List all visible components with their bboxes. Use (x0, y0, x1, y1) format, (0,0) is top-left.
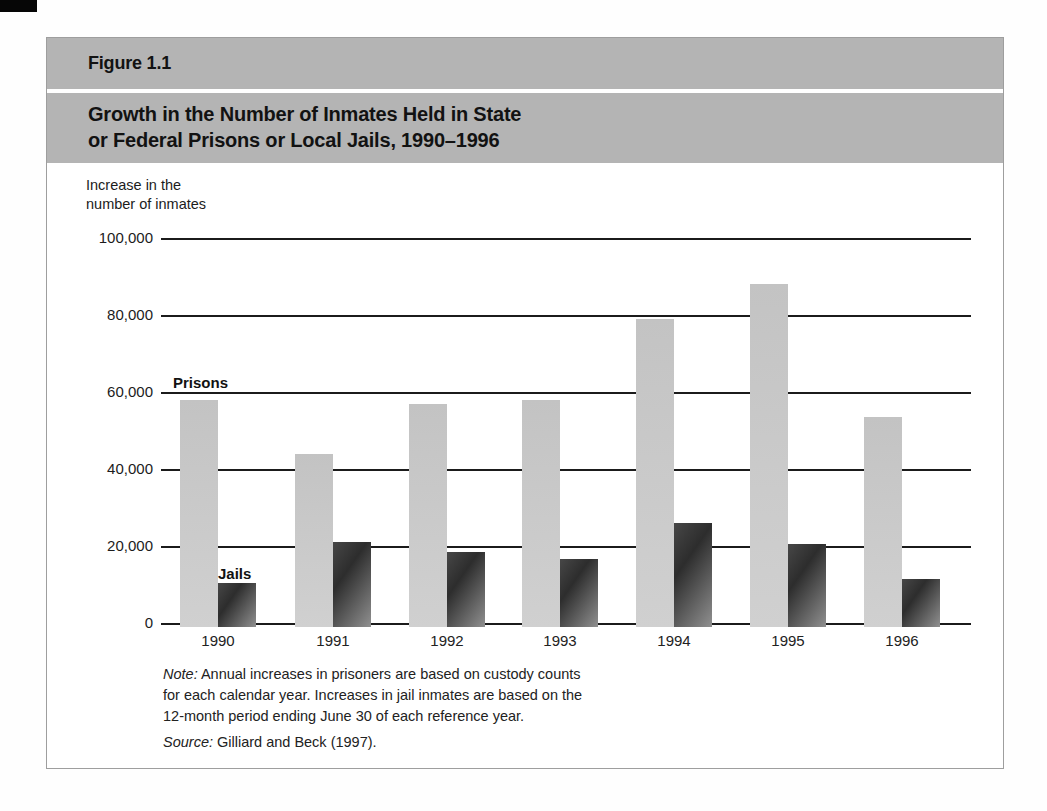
ytick-label-40000: 40,000 (67, 459, 153, 479)
ytick-label-60000: 60,000 (67, 382, 153, 402)
bar-prisons-1990 (180, 400, 218, 627)
gridline-20000 (161, 546, 971, 548)
bar-jails-1990 (218, 583, 256, 627)
ytick-label-20000: 20,000 (67, 536, 153, 556)
bar-prisons-1996 (864, 417, 902, 627)
note-label: Note: (163, 666, 198, 682)
gridline-100000 (161, 238, 971, 240)
ytick-label-100000: 100,000 (67, 228, 153, 248)
bar-jails-1992 (447, 552, 485, 627)
xtick-label-1991: 1991 (293, 632, 373, 649)
xtick-label-1995: 1995 (748, 632, 828, 649)
gridline-40000 (161, 469, 971, 471)
bar-jails-1991 (333, 542, 371, 627)
source-body: Gilliard and Beck (1997). (213, 734, 377, 750)
ytick-label-80000: 80,000 (67, 305, 153, 325)
xtick-label-1993: 1993 (520, 632, 600, 649)
bar-jails-1995 (788, 544, 826, 627)
bar-prisons-1994 (636, 319, 674, 627)
series-label-jails: Jails (218, 565, 251, 582)
note-body: Annual increases in prisoners are based … (163, 666, 582, 724)
xtick-label-1992: 1992 (407, 632, 487, 649)
xtick-label-1990: 1990 (178, 632, 258, 649)
bar-jails-1994 (674, 523, 712, 627)
y-axis-title: Increase in the number of inmates (86, 176, 206, 214)
bar-jails-1996 (902, 579, 940, 627)
figure-box: Figure 1.1 Growth in the Number of Inmat… (46, 37, 1004, 769)
series-label-prisons: Prisons (173, 374, 228, 391)
bar-prisons-1992 (409, 404, 447, 627)
page: Figure 1.1 Growth in the Number of Inmat… (0, 0, 1047, 811)
gridline-60000 (161, 392, 971, 394)
source-text: Source: Gilliard and Beck (1997). (163, 732, 377, 753)
xtick-label-1996: 1996 (862, 632, 942, 649)
bar-prisons-1993 (522, 400, 560, 627)
source-label: Source: (163, 734, 213, 750)
scan-artifact (0, 0, 37, 12)
bar-jails-1993 (560, 559, 598, 627)
xtick-label-1994: 1994 (634, 632, 714, 649)
gridline-80000 (161, 315, 971, 317)
ytick-label-0: 0 (67, 613, 153, 633)
note-text: Note: Annual increases in prisoners are … (163, 664, 582, 727)
bar-prisons-1995 (750, 284, 788, 627)
bar-prisons-1991 (295, 454, 333, 627)
chart-area: Increase in the number of inmates 100,00… (47, 38, 1003, 768)
